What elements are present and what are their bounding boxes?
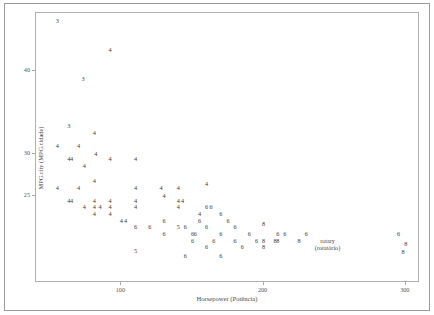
- data-point: 4: [94, 151, 97, 157]
- data-point: 8: [262, 221, 265, 227]
- y-tick-label: 40: [24, 67, 30, 73]
- data-point: 6: [226, 218, 229, 224]
- data-point: 6: [219, 211, 222, 217]
- y-tick-mark: [32, 153, 35, 154]
- data-point: 6: [212, 238, 215, 244]
- data-point: 4: [134, 185, 137, 191]
- data-point: 6: [283, 231, 286, 237]
- plot-area: 3433444444444444444444444444444444664446…: [36, 13, 418, 281]
- data-point: 8: [276, 238, 279, 244]
- data-point: 4: [108, 156, 111, 162]
- x-tick-label: 100: [116, 287, 125, 293]
- data-point: 6: [219, 252, 222, 258]
- x-tick-mark: [120, 282, 121, 285]
- data-point: 4: [177, 185, 180, 191]
- data-point: 6: [194, 231, 197, 237]
- data-point: 6: [219, 231, 222, 237]
- data-point: 8: [262, 244, 265, 250]
- data-point: 6: [234, 238, 237, 244]
- data-point: 4: [56, 185, 59, 191]
- data-point: 6: [209, 204, 212, 210]
- x-tick-mark: [405, 282, 406, 285]
- data-point: 6: [205, 244, 208, 250]
- data-point: 6: [205, 224, 208, 230]
- data-point: 8: [404, 241, 407, 247]
- x-axis-title: Horsepower (Potência): [35, 295, 419, 302]
- data-point: 4: [124, 218, 127, 224]
- data-point: 4: [108, 47, 111, 53]
- data-point: 6: [184, 224, 187, 230]
- data-point: 6: [305, 231, 308, 237]
- data-point: 6: [134, 224, 137, 230]
- data-point: 6: [184, 252, 187, 258]
- data-point: 4: [134, 204, 137, 210]
- data-point: 4: [98, 204, 101, 210]
- data-point: 8: [298, 238, 301, 244]
- data-point: 3: [56, 18, 59, 24]
- plot-frame: 3433444444444444444444444444444444664446…: [35, 12, 419, 282]
- data-point: 4: [77, 143, 80, 149]
- data-point: 4: [93, 178, 96, 184]
- data-point: 3: [67, 123, 70, 129]
- y-axis-title: MPG.city (MPG.cidade): [37, 126, 44, 189]
- y-tick-label: 30: [24, 150, 30, 156]
- y-tick-mark: [32, 70, 35, 71]
- data-point: 6: [191, 238, 194, 244]
- x-tick-label: 300: [400, 287, 409, 293]
- data-point: 4: [160, 185, 163, 191]
- data-point: 4: [205, 181, 208, 187]
- data-point: 3: [81, 76, 84, 82]
- chart-annotation: rotary (rotatório): [315, 237, 340, 252]
- data-point: 6: [162, 231, 165, 237]
- data-point: 4: [83, 163, 86, 169]
- data-point: 6: [255, 238, 258, 244]
- data-point: 6: [234, 224, 237, 230]
- data-point: 6: [205, 204, 208, 210]
- x-tick-label: 200: [258, 287, 267, 293]
- data-point: 4: [93, 211, 96, 217]
- data-point: 4: [181, 198, 184, 204]
- data-point: 4: [83, 204, 86, 210]
- data-point: 4: [70, 198, 73, 204]
- data-point: 6: [248, 231, 251, 237]
- data-point: 6: [162, 218, 165, 224]
- y-tick-mark: [32, 195, 35, 196]
- data-point: 6: [241, 244, 244, 250]
- data-point: 4: [77, 185, 80, 191]
- x-tick-mark: [263, 282, 264, 285]
- data-point: 4: [120, 218, 123, 224]
- data-point: 4: [56, 143, 59, 149]
- data-point: 6: [148, 224, 151, 230]
- chart-figure: 3433444444444444444444444444444444664446…: [0, 0, 434, 315]
- data-point: 4: [134, 156, 137, 162]
- data-point: 8: [401, 249, 404, 255]
- data-point: 4: [70, 156, 73, 162]
- data-point: 5: [134, 247, 137, 253]
- data-point: 4: [108, 211, 111, 217]
- data-point: 6: [198, 218, 201, 224]
- data-point: 6: [397, 231, 400, 237]
- data-point: 4: [93, 130, 96, 136]
- data-point: 4: [162, 193, 165, 199]
- data-point: 5: [177, 224, 180, 230]
- y-tick-label: 25: [24, 192, 30, 198]
- data-point: 4: [177, 204, 180, 210]
